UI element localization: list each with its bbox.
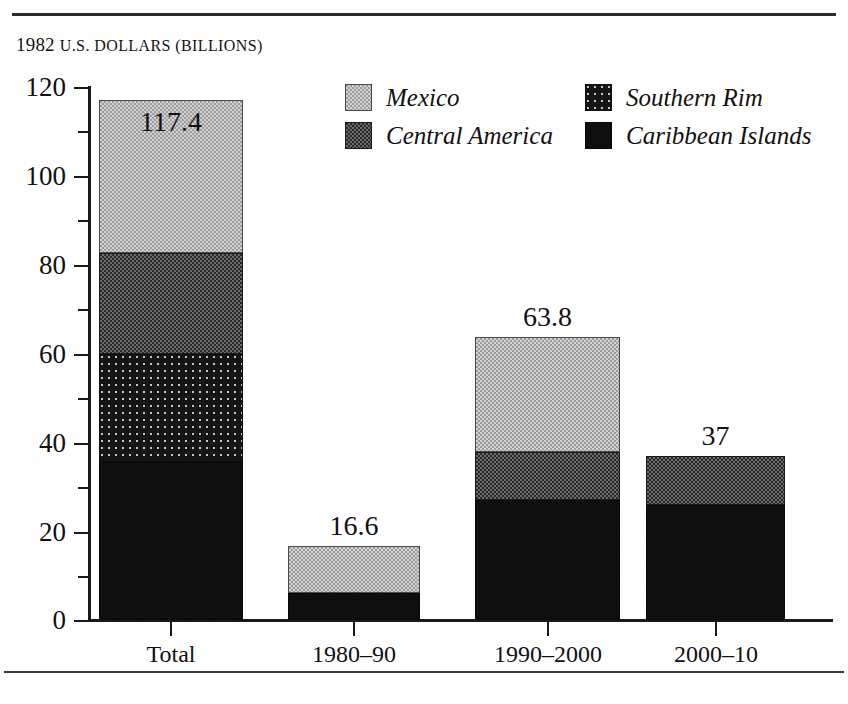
y-tick-100 <box>74 176 89 178</box>
y-tick-40 <box>74 443 89 445</box>
y-tick-60 <box>74 354 89 356</box>
y-tick-label-60: 60 <box>0 341 66 368</box>
y-tick-minor-30 <box>78 487 89 489</box>
bar-segment-1980-90-caribbean-islands[interactable] <box>288 593 420 620</box>
y-tick-label-0: 0 <box>0 607 66 634</box>
x-tick-2000-10 <box>715 621 717 636</box>
y-tick-minor-90 <box>78 220 89 222</box>
x-axis-label-2000-10: 2000–10 <box>645 641 787 667</box>
bottom-divider-rule <box>4 671 844 673</box>
y-tick-0 <box>74 620 89 622</box>
legend-swatch-southern-rim-icon <box>585 84 612 111</box>
y-tick-20 <box>74 532 89 534</box>
bar-value-2000-10: 37 <box>646 422 785 450</box>
x-axis-label-1980-90: 1980–90 <box>283 641 425 667</box>
bar-segment-total-caribbean-islands[interactable] <box>99 462 243 620</box>
bar-value-total: 117.4 <box>99 108 243 136</box>
y-tick-120 <box>74 87 89 89</box>
bar-value-1980-90: 16.6 <box>288 512 420 540</box>
y-tick-80 <box>74 265 89 267</box>
bar-segment-total-central-america[interactable] <box>99 253 243 354</box>
legend-item-mexico[interactable]: Mexico <box>345 84 460 111</box>
legend-swatch-mexico-icon <box>345 84 372 111</box>
y-tick-minor-70 <box>78 309 89 311</box>
bar-segment-total-southern-rim[interactable] <box>99 354 243 462</box>
legend-swatch-central-america-icon <box>345 122 372 149</box>
bar-segment-1990-2000-mexico[interactable] <box>475 337 620 452</box>
x-tick-1990-2000 <box>547 621 549 636</box>
legend-label-central-america: Central America <box>386 123 553 148</box>
legend-label-caribbean-islands: Caribbean Islands <box>626 123 811 148</box>
bar-segment-1980-90-mexico[interactable] <box>288 546 420 593</box>
y-tick-label-80: 80 <box>0 252 66 279</box>
bar-value-1990-2000: 63.8 <box>475 303 620 331</box>
y-tick-label-100: 100 <box>0 163 66 190</box>
y-tick-label-20: 20 <box>0 519 66 546</box>
y-tick-label-40: 40 <box>0 430 66 457</box>
legend-item-caribbean-islands[interactable]: Caribbean Islands <box>585 122 811 149</box>
legend-swatch-caribbean-islands-icon <box>585 122 612 149</box>
y-tick-label-120: 120 <box>0 74 66 101</box>
x-tick-1980-90 <box>353 621 355 636</box>
legend-label-mexico: Mexico <box>386 85 460 110</box>
bar-segment-2000-10-caribbean-islands[interactable] <box>646 505 785 620</box>
bar-segment-1990-2000-central-america[interactable] <box>475 452 620 500</box>
bar-segment-2000-10-central-america[interactable] <box>646 456 785 505</box>
y-tick-minor-50 <box>78 398 89 400</box>
y-tick-minor-110 <box>78 131 89 133</box>
y-tick-minor-10 <box>78 576 89 578</box>
bar-segment-1990-2000-caribbean-islands[interactable] <box>475 500 620 620</box>
x-axis-label-total: Total <box>100 641 242 667</box>
legend-item-central-america[interactable]: Central America <box>345 122 553 149</box>
x-axis-label-1990-2000: 1990–2000 <box>467 641 629 667</box>
x-tick-total <box>170 621 172 636</box>
legend-label-southern-rim: Southern Rim <box>626 85 763 110</box>
legend-item-southern-rim[interactable]: Southern Rim <box>585 84 763 111</box>
